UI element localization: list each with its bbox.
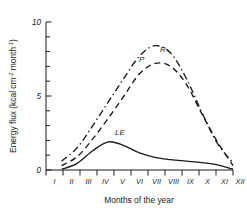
y-axis-major-ticks [46,22,52,170]
series-label-P: P [139,55,145,64]
x-tick-label-5: V [120,177,126,186]
y-axis-title: Energy flux (kcal cm-2 month-1) [8,39,18,153]
x-tick-label-7: VII [152,177,161,186]
x-tick-label-12: XII [235,177,245,186]
x-tick-label-1: I [54,177,56,186]
y-tick-label-0: 0 [36,166,41,175]
x-tick-label-3: III [86,177,92,186]
plot-curves [62,46,233,170]
x-tick-label-6: VI [136,177,143,186]
x-tick-label-4: IV [102,177,110,186]
x-tick-label-9: IX [187,177,195,186]
x-tick-label-2: II [70,177,74,186]
series-label-R: R [160,45,166,54]
energy-flux-line-chart: Energy flux (kcal cm-2 month-1) 10 5 0 [0,0,247,213]
chart-figure: Energy flux (kcal cm-2 month-1) 10 5 0 [0,0,247,213]
y-axis-title-text: Energy flux (kcal cm [8,77,18,152]
series-label-LE: LE [115,128,125,137]
y-axis-title-mid: month [8,47,18,73]
x-tick-label-10: X [204,177,211,186]
series-curve-P [62,63,233,166]
x-tick-label-8: VIII [168,177,179,186]
y-tick-label-5: 5 [36,92,41,101]
svg-text:Energy flux (kcal cm-2 month-1: Energy flux (kcal cm-2 month-1) [8,39,18,153]
x-axis-ticks [46,170,233,176]
y-axis-title-end: ) [8,39,18,42]
y-tick-label-10: 10 [32,18,42,27]
x-tick-label-11: XI [220,177,228,186]
x-axis-tick-labels: I II III IV V VI VII VIII IX X XI XII [54,177,245,186]
x-axis-title: Months of the year [104,195,174,205]
